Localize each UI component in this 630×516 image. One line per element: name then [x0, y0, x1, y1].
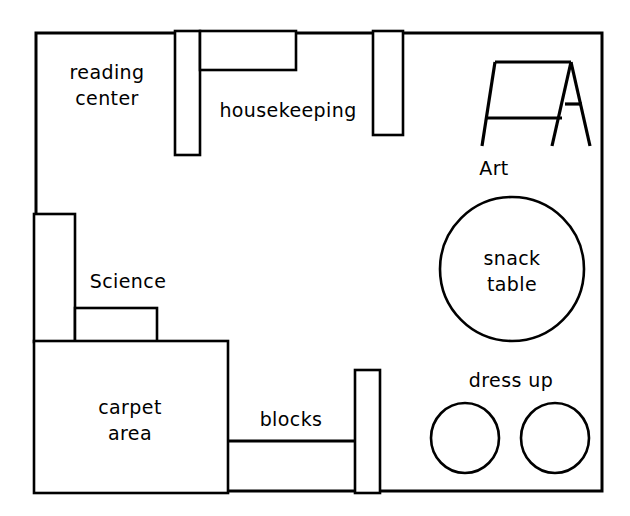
classroom-floor-plan-svg: reading center housekeeping Art snack ta… — [0, 0, 630, 516]
label-housekeeping: housekeeping — [219, 99, 356, 121]
science-low-shelf — [75, 308, 157, 342]
label-reading-center-line1: reading — [70, 61, 145, 83]
label-science: Science — [90, 270, 166, 292]
label-snack-table-line2: table — [487, 273, 537, 295]
label-blocks: blocks — [260, 408, 323, 430]
housekeeping-shelf — [200, 31, 296, 70]
dress-up-circle-right — [521, 403, 589, 473]
art-easel-icon — [482, 62, 590, 146]
label-snack-table-line1: snack — [483, 247, 540, 269]
snack-table-circle — [440, 197, 584, 341]
label-dress-up: dress up — [469, 369, 553, 391]
dress-up-circle-left — [431, 403, 499, 473]
blocks-right-partition — [355, 370, 380, 493]
housekeeping-right-partition — [373, 31, 403, 135]
science-tall-shelf — [34, 214, 75, 342]
housekeeping-vertical-partition — [175, 31, 200, 155]
floor-plan-diagram: reading center housekeeping Art snack ta… — [0, 0, 630, 516]
label-reading-center-line2: center — [75, 87, 139, 109]
label-carpet-area-line1: carpet — [98, 396, 162, 418]
label-carpet-area-line2: area — [108, 422, 152, 444]
label-art: Art — [479, 157, 508, 179]
